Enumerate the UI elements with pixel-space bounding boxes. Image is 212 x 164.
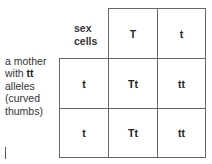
mother-label-line: thumbs) <box>5 105 46 117</box>
offspring-cell: Tt <box>109 59 157 108</box>
mother-label-line: with tt <box>5 67 46 79</box>
mother-allele-cell: t <box>60 109 108 157</box>
mother-allele: tt <box>27 67 34 79</box>
mother-allele-cell: t <box>60 59 108 108</box>
father-allele-cell: t <box>158 9 205 58</box>
sex-cells-header: sex cells <box>74 22 97 48</box>
offspring-cell: Tt <box>109 109 157 157</box>
text-cursor <box>5 147 6 159</box>
mother-label-line: alleles <box>5 80 46 92</box>
grid-line <box>59 157 206 158</box>
offspring-cell: tt <box>158 109 205 157</box>
mother-label-line: (curved <box>5 92 46 104</box>
offspring-cell: tt <box>158 59 205 108</box>
sex-cells-header-line: cells <box>74 35 97 48</box>
father-allele-cell: T <box>109 9 157 58</box>
mother-label-line: a mother <box>5 55 46 67</box>
mother-label-text: with <box>5 67 27 79</box>
sex-cells-header-line: sex <box>74 22 97 35</box>
mother-label: a mother with tt alleles (curved thumbs) <box>5 55 46 117</box>
grid-line <box>205 8 206 158</box>
